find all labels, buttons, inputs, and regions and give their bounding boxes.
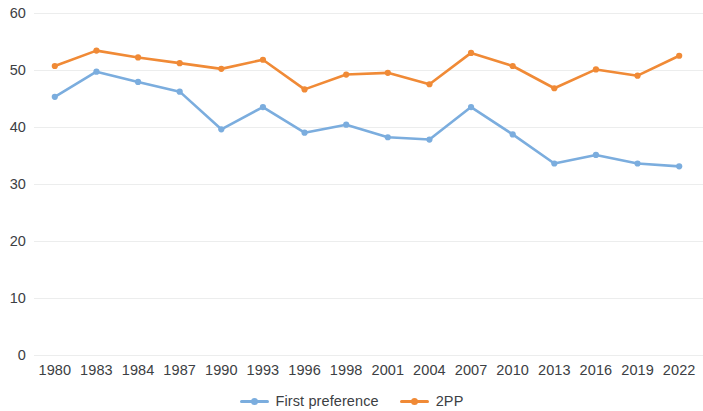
x-axis-tick-label: 2019 [621, 363, 654, 378]
data-point[interactable] [551, 160, 557, 166]
data-point[interactable] [135, 79, 141, 85]
data-point[interactable] [385, 134, 391, 140]
x-axis-tick-label: 2022 [663, 363, 696, 378]
data-point[interactable] [385, 70, 391, 76]
line-chart: 0102030405060 19801983198419871990199319… [0, 0, 703, 411]
x-axis-tick-label: 1996 [288, 363, 321, 378]
data-point[interactable] [676, 163, 682, 169]
data-point[interactable] [301, 86, 307, 92]
x-axis-tick-label: 1984 [122, 363, 155, 378]
legend-item-2[interactable]: 2PP [400, 393, 464, 409]
data-point[interactable] [93, 69, 99, 75]
data-point[interactable] [343, 71, 349, 77]
x-axis-tick-label: 1998 [330, 363, 363, 378]
x-axis-tick-label: 1983 [80, 363, 113, 378]
data-point[interactable] [468, 50, 474, 56]
x-axis-tick-label: 2001 [371, 363, 404, 378]
x-axis-tick-label: 2004 [413, 363, 446, 378]
x-axis-tick-label: 1987 [163, 363, 196, 378]
data-point[interactable] [343, 122, 349, 128]
data-point[interactable] [634, 160, 640, 166]
legend-swatch-icon [240, 396, 269, 406]
legend-item-1[interactable]: First preference [240, 393, 379, 409]
legend-label: 2PP [436, 393, 464, 409]
x-axis-tick-label: 2016 [580, 363, 613, 378]
data-point[interactable] [218, 66, 224, 72]
series-1 [52, 69, 683, 170]
data-point[interactable] [676, 53, 682, 59]
data-point[interactable] [593, 66, 599, 72]
data-point[interactable] [634, 73, 640, 79]
data-point[interactable] [426, 81, 432, 87]
data-point[interactable] [593, 152, 599, 158]
data-point[interactable] [510, 131, 516, 137]
chart-legend: First preference2PP [0, 390, 703, 411]
x-axis-tick-label: 2007 [455, 363, 488, 378]
x-axis-tick-label: 1993 [247, 363, 280, 378]
data-point[interactable] [93, 48, 99, 54]
data-point[interactable] [260, 104, 266, 110]
x-axis-tick-label: 1990 [205, 363, 238, 378]
data-point[interactable] [426, 136, 432, 142]
x-axis-tick-label: 2010 [496, 363, 529, 378]
data-point[interactable] [551, 85, 557, 91]
x-axis-tick-label: 2013 [538, 363, 571, 378]
data-point[interactable] [510, 63, 516, 69]
series-2 [52, 48, 683, 93]
data-point[interactable] [301, 130, 307, 136]
data-point[interactable] [468, 104, 474, 110]
data-point[interactable] [135, 54, 141, 60]
data-point[interactable] [52, 63, 58, 69]
legend-label: First preference [276, 393, 379, 409]
data-point[interactable] [52, 94, 58, 100]
x-axis: 1980198319841987199019931996199820012004… [34, 363, 703, 383]
legend-swatch-icon [400, 396, 429, 406]
series-line [55, 72, 679, 167]
data-point[interactable] [218, 126, 224, 132]
data-point[interactable] [177, 60, 183, 66]
data-point[interactable] [177, 89, 183, 95]
data-point[interactable] [260, 57, 266, 63]
x-axis-tick-label: 1980 [38, 363, 71, 378]
series-layer [0, 0, 703, 411]
